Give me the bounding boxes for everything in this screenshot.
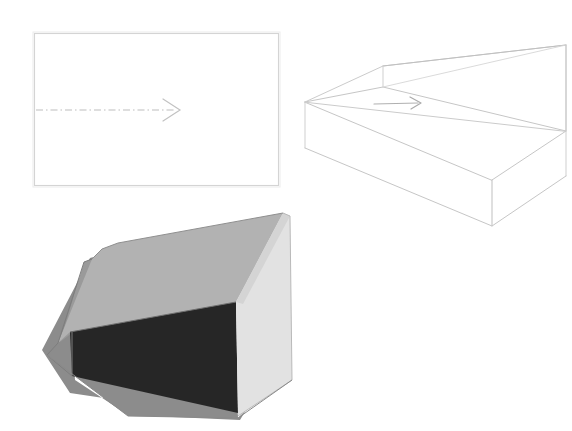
figure-plan-view — [33, 32, 280, 187]
figure-shaded-solid — [42, 213, 292, 420]
wireframe-wedge-inner-crease — [383, 45, 566, 87]
wireframe-wedge-ridge — [383, 45, 566, 66]
figure-wireframe — [305, 45, 566, 226]
figure-canvas: Plan view rectangle with direction arrow… — [0, 0, 572, 431]
figures-svg — [0, 0, 572, 431]
wireframe-slab-top-face — [305, 87, 566, 180]
wireframe-slab-bottom-edges — [305, 148, 566, 226]
wireframe-arrow-shaft — [374, 103, 418, 104]
